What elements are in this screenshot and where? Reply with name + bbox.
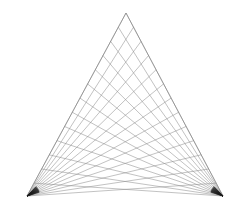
string-art-figure — [0, 0, 248, 209]
figure-canvas — [0, 0, 248, 209]
